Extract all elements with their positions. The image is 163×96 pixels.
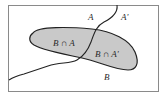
label-a-complement: A' (120, 12, 129, 22)
venn-diagram: A A' B ∩ A B ∩ A' B (0, 0, 163, 96)
label-b-intersect-a: B ∩ A (53, 38, 75, 48)
label-a: A (87, 12, 94, 22)
label-b-intersect-a-complement: B ∩ A' (95, 49, 120, 59)
diagram-canvas: A A' B ∩ A B ∩ A' B (0, 0, 163, 96)
label-b: B (104, 72, 110, 82)
